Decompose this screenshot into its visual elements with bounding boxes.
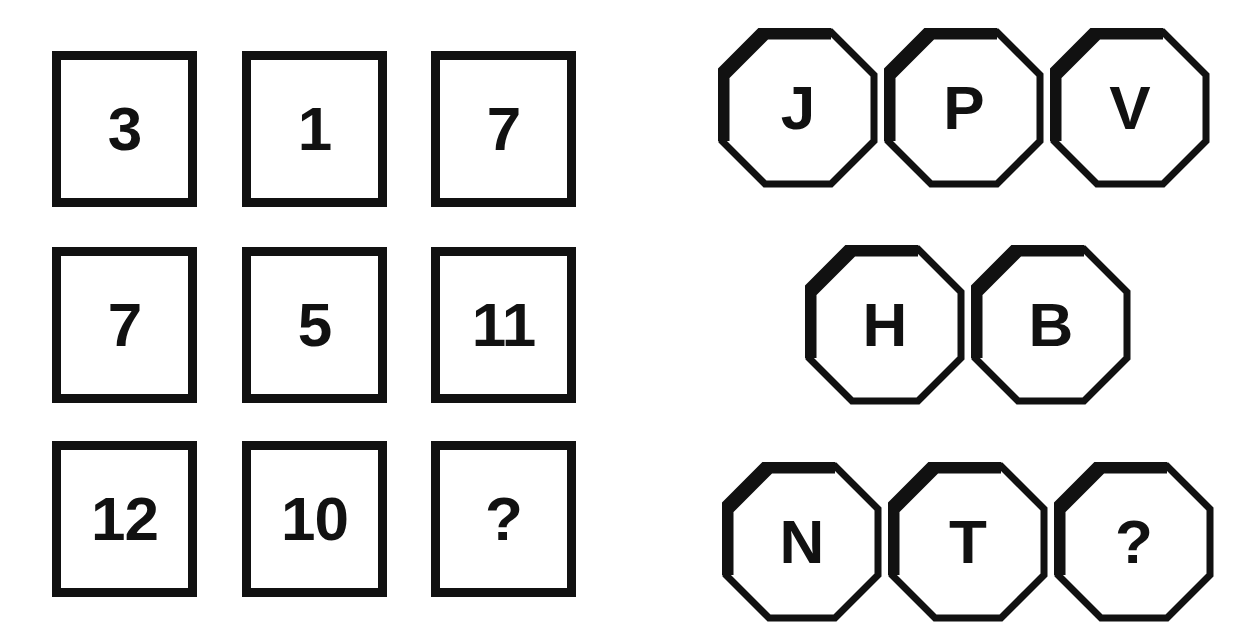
octagon-cell-value: J [718, 28, 878, 188]
octagon-cell-r0c0[interactable]: J [718, 28, 878, 188]
octagon-row-2: N T ? [700, 462, 1242, 627]
square-cell-value: 7 [108, 294, 141, 356]
letter-octagon-grid: J P V [700, 20, 1220, 620]
octagon-cell-r0c2[interactable]: V [1050, 28, 1210, 188]
square-cell-value: 7 [487, 98, 520, 160]
octagon-row-0: J P V [700, 28, 1238, 193]
square-cell-r2c0[interactable]: 12 [52, 441, 197, 597]
square-cell-value: 11 [472, 294, 536, 356]
square-cell-r1c0[interactable]: 7 [52, 247, 197, 403]
octagon-cell-value: T [888, 462, 1048, 622]
octagon-cell-value: ? [1054, 462, 1214, 622]
square-cell-r0c1[interactable]: 1 [242, 51, 387, 207]
square-cell-value: 12 [91, 488, 158, 550]
square-cell-r0c0[interactable]: 3 [52, 51, 197, 207]
square-cell-r1c1[interactable]: 5 [242, 247, 387, 403]
octagon-cell-r1c0[interactable]: H [805, 245, 965, 405]
octagon-cell-r1c1[interactable]: B [971, 245, 1131, 405]
square-cell-r0c2[interactable]: 7 [431, 51, 576, 207]
octagon-cell-value: V [1050, 28, 1210, 188]
octagon-cell-value: N [722, 462, 882, 622]
octagon-cell-r2c0[interactable]: N [722, 462, 882, 622]
square-cell-value: 5 [298, 294, 331, 356]
square-cell-value: 3 [108, 98, 141, 160]
square-cell-r2c1[interactable]: 10 [242, 441, 387, 597]
octagon-cell-r2c1[interactable]: T [888, 462, 1048, 622]
square-cell-missing[interactable]: ? [431, 441, 576, 597]
octagon-cell-value: H [805, 245, 965, 405]
number-square-grid: 3 1 7 7 5 11 12 10 ? [52, 51, 584, 593]
puzzle-canvas: 3 1 7 7 5 11 12 10 ? [0, 0, 1248, 630]
square-cell-value: 1 [298, 98, 331, 160]
octagon-cell-r0c1[interactable]: P [884, 28, 1044, 188]
octagon-cell-value: P [884, 28, 1044, 188]
square-cell-r1c2[interactable]: 11 [431, 247, 576, 403]
square-cell-value: 10 [281, 488, 348, 550]
octagon-row-1: H B [700, 245, 1248, 410]
square-cell-value: ? [485, 488, 522, 550]
octagon-cell-value: B [971, 245, 1131, 405]
octagon-cell-missing[interactable]: ? [1054, 462, 1214, 622]
